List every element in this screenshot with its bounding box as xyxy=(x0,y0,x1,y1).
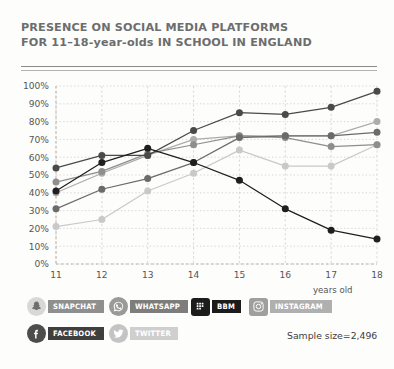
x-tick-label: 17 xyxy=(325,270,337,280)
data-point xyxy=(374,236,381,243)
data-point xyxy=(236,177,243,184)
legend-label-bbm: BBM xyxy=(212,300,241,313)
chart-plot-area: 0%10%20%30%40%50%60%70%80%90%100% 111213… xyxy=(0,72,394,282)
data-point xyxy=(328,163,335,170)
x-tick-label: 12 xyxy=(96,270,108,280)
data-point xyxy=(282,205,289,212)
y-tick-label: 70% xyxy=(29,135,50,145)
line-chart-svg: 0%10%20%30%40%50%60%70%80%90%100% 111213… xyxy=(0,72,394,282)
data-point xyxy=(98,216,105,223)
title-line-2: FOR 11–18-year-olds IN SCHOOL IN ENGLAND xyxy=(21,36,321,51)
legend-label-snapchat: SNAPCHAT xyxy=(48,300,104,313)
x-axis-label: years old xyxy=(313,285,352,295)
y-tick-label: 90% xyxy=(29,99,50,109)
y-tick-label: 20% xyxy=(29,224,50,234)
x-tick-label: 14 xyxy=(188,270,200,280)
legend-item-bbm[interactable]: BBM xyxy=(191,296,241,317)
x-tick-label: 18 xyxy=(371,270,383,280)
y-tick-label: 40% xyxy=(29,188,50,198)
chart-page: PRESENCE ON SOCIAL MEDIA PLATFORMS FOR 1… xyxy=(0,0,394,369)
sample-size-note: Sample size=2,496 xyxy=(287,330,377,341)
data-point xyxy=(374,118,381,125)
facebook-f-icon xyxy=(27,324,46,343)
whatsapp-phone-icon xyxy=(109,297,128,316)
data-point xyxy=(282,132,289,139)
data-point xyxy=(144,145,151,152)
data-point xyxy=(374,141,381,148)
x-tick-label: 13 xyxy=(142,270,154,280)
data-point xyxy=(98,168,105,175)
data-point xyxy=(328,104,335,111)
data-point xyxy=(328,132,335,139)
data-point xyxy=(236,134,243,141)
series-whatsapp xyxy=(53,132,381,185)
data-point xyxy=(282,111,289,118)
legend-label-twitter: TWITTER xyxy=(130,327,179,340)
data-point xyxy=(328,143,335,150)
data-point xyxy=(144,175,151,182)
x-tick-label: 16 xyxy=(279,270,291,280)
data-point xyxy=(190,159,197,166)
x-tick-label: 11 xyxy=(50,270,62,280)
legend-item-facebook[interactable]: FACEBOOK xyxy=(27,323,104,344)
data-point xyxy=(53,164,60,171)
snapchat-ghost-icon xyxy=(27,297,46,316)
data-point xyxy=(236,109,243,116)
y-tick-label: 80% xyxy=(29,117,50,127)
legend-item-whatsapp[interactable]: WHATSAPP xyxy=(109,296,188,317)
bbm-chat-icon xyxy=(191,298,210,316)
data-point xyxy=(328,227,335,234)
data-point xyxy=(190,127,197,134)
y-axis-tick-labels: 0%10%20%30%40%50%60%70%80%90%100% xyxy=(23,81,49,269)
legend-item-twitter[interactable]: TWITTER xyxy=(109,323,179,344)
y-tick-label: 10% xyxy=(29,242,50,252)
data-point xyxy=(144,188,151,195)
instagram-camera-icon xyxy=(249,298,268,316)
x-axis-tick-labels: 1112131415161718 xyxy=(50,270,383,280)
data-point xyxy=(98,186,105,193)
y-tick-label: 50% xyxy=(29,170,50,180)
data-point xyxy=(282,163,289,170)
data-point xyxy=(190,170,197,177)
data-point xyxy=(236,147,243,154)
y-tick-label: 30% xyxy=(29,206,50,216)
y-tick-label: 60% xyxy=(29,153,50,163)
data-point xyxy=(53,205,60,212)
y-tick-label: 0% xyxy=(35,259,50,269)
legend-label-whatsapp: WHATSAPP xyxy=(130,300,188,313)
twitter-bird-icon xyxy=(109,324,128,343)
data-point xyxy=(144,152,151,159)
data-point xyxy=(190,141,197,148)
legend-label-facebook: FACEBOOK xyxy=(48,327,104,340)
title-divider xyxy=(21,66,377,71)
legend-item-instagram[interactable]: INSTAGRAM xyxy=(249,296,332,317)
legend-item-snapchat[interactable]: SNAPCHAT xyxy=(27,296,104,317)
title-line-1: PRESENCE ON SOCIAL MEDIA PLATFORMS xyxy=(21,21,321,36)
y-tick-label: 100% xyxy=(23,81,49,91)
legend-label-instagram: INSTAGRAM xyxy=(270,300,332,313)
data-point xyxy=(98,152,105,159)
data-point xyxy=(98,159,105,166)
x-tick-label: 15 xyxy=(234,270,246,280)
data-point xyxy=(53,179,60,186)
data-point xyxy=(53,188,60,195)
data-point xyxy=(374,88,381,95)
page-title: PRESENCE ON SOCIAL MEDIA PLATFORMS FOR 1… xyxy=(21,21,321,50)
data-point xyxy=(53,223,60,230)
data-point xyxy=(374,129,381,136)
